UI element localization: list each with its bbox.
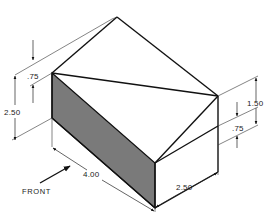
- isometric-drawing: .75 2.50 4.00 2.50 1.50 .75 FRONT: [0, 0, 271, 212]
- dim-width: 2.50: [156, 173, 217, 207]
- dim-right-075: .75: [232, 102, 244, 148]
- dim-label-right-075: .75: [232, 124, 244, 133]
- dim-label-height: 2.50: [4, 108, 21, 117]
- dim-label-width: 2.50: [176, 183, 193, 192]
- front-arrow-icon: [40, 166, 70, 183]
- dim-label-right-150: 1.50: [247, 99, 264, 108]
- dim-label-left-075: .75: [27, 72, 39, 81]
- dim-left-075: .75: [27, 40, 39, 103]
- dim-right-150: 1.50: [247, 78, 264, 124]
- dim-label-length: 4.00: [83, 170, 100, 179]
- front-indicator: FRONT: [22, 166, 70, 196]
- front-label: FRONT: [22, 187, 51, 196]
- shaded-face: [52, 73, 155, 208]
- dim-overall-height: 2.50: [4, 76, 21, 140]
